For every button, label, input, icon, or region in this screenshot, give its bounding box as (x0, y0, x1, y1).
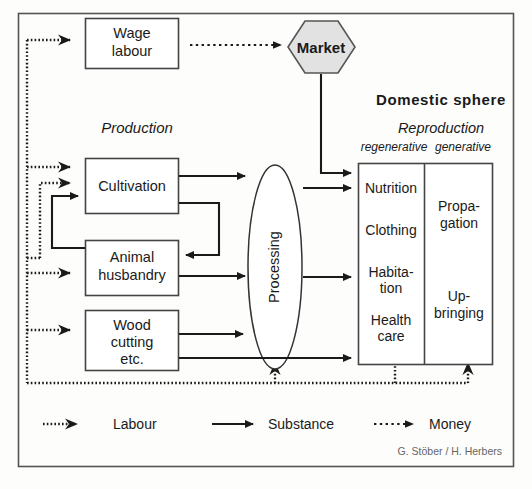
domestic-item-health-care-line2: care (377, 328, 404, 344)
node-market-label: Market (297, 39, 345, 56)
legend-label-money: Money (429, 416, 471, 432)
domestic-item-habitation-line2: tion (380, 280, 403, 296)
domestic-item-propagation-line1: Propa- (438, 198, 480, 214)
legend-label-substance: Substance (268, 416, 334, 432)
domestic-item-nutrition: Nutrition (365, 180, 417, 196)
label-domestic-sphere: Domestic sphere (376, 91, 506, 108)
domestic-item-clothing: Clothing (365, 222, 416, 238)
node-wood-cutting-label-line2: cutting (111, 334, 154, 350)
livelihood-system-diagram: Wage labour Cultivation Animal husbandry… (0, 0, 532, 489)
domestic-item-health-care-line1: Health (371, 312, 411, 328)
legend-label-labour: Labour (113, 416, 157, 432)
node-wage-labour-label-line2: labour (112, 43, 152, 59)
node-processing-label: Processing (266, 231, 282, 303)
node-wood-cutting-label-line1: Wood (113, 317, 151, 333)
domestic-item-habitation-line1: Habita- (368, 264, 413, 280)
label-regenerative: regenerative (361, 140, 428, 154)
node-animal-husbandry-label-line2: husbandry (98, 267, 166, 283)
node-animal-husbandry-label-line1: Animal (110, 249, 154, 265)
domestic-item-propagation-line2: gation (440, 215, 478, 231)
domestic-item-upbringing-line2: bringing (434, 305, 484, 321)
label-production: Production (101, 119, 173, 136)
node-cultivation-label: Cultivation (98, 178, 166, 194)
node-wood-cutting-label-line3: etc. (120, 351, 143, 367)
label-generative: generative (435, 140, 491, 154)
figure-canvas: Wage labour Cultivation Animal husbandry… (0, 0, 532, 489)
node-wage-labour-label-line1: Wage (113, 25, 150, 41)
label-reproduction: Reproduction (398, 120, 484, 136)
attribution-text: G. Stöber / H. Herbers (398, 445, 502, 457)
domestic-item-upbringing-line1: Up- (448, 288, 471, 304)
